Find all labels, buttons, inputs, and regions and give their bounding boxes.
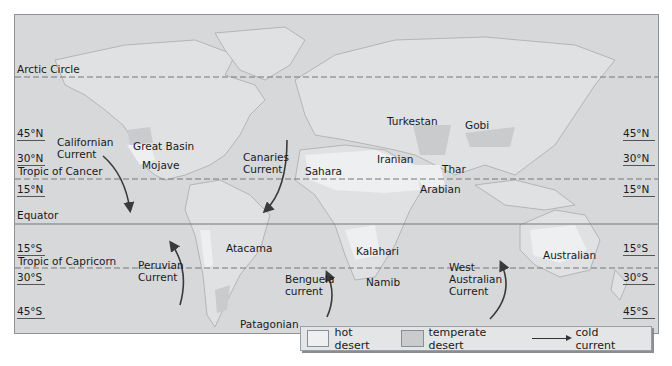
lat-45n-right: 45°N: [623, 127, 655, 141]
current-label-benguela-line2: current: [285, 285, 334, 297]
legend-label-temperate-desert: temperate desert: [429, 326, 519, 352]
world-desert-map: Arctic Circle 45°N 30°N Tropic of Cancer…: [14, 14, 659, 334]
current-label-californian-line2: Current: [57, 148, 114, 160]
desert-label-atacama: Atacama: [226, 242, 272, 254]
current-label-west-australian-line2: Australian: [449, 273, 502, 285]
lat-30s-right: 30°S: [623, 271, 655, 285]
current-label-peruvian-line1: Peruvian: [138, 259, 184, 271]
desert-label-kalahari: Kalahari: [356, 245, 399, 257]
lat-30n-left: 30°N: [17, 152, 45, 166]
current-label-peruvian-line2: Current: [138, 271, 184, 283]
lat-45s-left: 45°S: [17, 305, 45, 319]
current-label-west-australian: West Australian Current: [449, 261, 502, 297]
legend-label-hot-desert: hot desert: [334, 326, 387, 352]
lat-30s-left: 30°S: [17, 271, 45, 285]
desert-label-thar: Thar: [442, 163, 466, 175]
desert-label-gobi: Gobi: [465, 119, 489, 131]
californian-current-arrow: [103, 156, 130, 210]
current-label-benguela-line1: Benguela: [285, 273, 334, 285]
tropic-of-cancer-label: Tropic of Cancer: [18, 165, 103, 177]
arctic-circle-label: Arctic Circle: [17, 63, 80, 75]
desert-label-sahara: Sahara: [305, 165, 342, 177]
desert-label-iranian: Iranian: [377, 153, 414, 165]
equator-label: Equator: [17, 209, 58, 221]
current-label-west-australian-line1: West: [449, 261, 502, 273]
lat-45s-right: 45°S: [623, 305, 655, 319]
current-label-californian: Californian Current: [57, 136, 114, 160]
lat-15s-left: 15°S: [17, 242, 45, 256]
greenland-landmass: [215, 27, 305, 80]
temperate-desert-swatch: [401, 330, 423, 347]
desert-label-great-basin: Great Basin: [133, 140, 194, 152]
current-label-west-australian-line3: Current: [449, 285, 502, 297]
lat-15s-right: 15°S: [623, 242, 655, 256]
desert-label-australian: Australian: [543, 249, 596, 261]
current-label-canaries-line2: Current: [243, 163, 289, 175]
current-label-peruvian: Peruvian Current: [138, 259, 184, 283]
arrow-right-icon: [532, 338, 569, 339]
southeast-asia-islands: [475, 180, 575, 210]
desert-label-turkestan: Turkestan: [387, 115, 438, 127]
lat-15n-right: 15°N: [623, 183, 655, 197]
current-label-californian-line1: Californian: [57, 136, 114, 148]
tropic-of-capricorn-label: Tropic of Capricorn: [18, 255, 116, 267]
hot-desert-swatch: [307, 330, 329, 347]
desert-label-namib: Namib: [366, 276, 400, 288]
legend-label-cold-current: cold current: [576, 326, 637, 352]
desert-label-patagonian: Patagonian: [240, 318, 299, 330]
current-label-canaries-line1: Canaries: [243, 151, 289, 163]
lat-45n-left: 45°N: [17, 127, 45, 141]
current-label-benguela: Benguela current: [285, 273, 334, 297]
legend-item-hot-desert: hot desert: [307, 326, 387, 352]
lat-30n-right: 30°N: [623, 152, 655, 166]
desert-label-mojave: Mojave: [142, 159, 180, 171]
map-legend: hot desert temperate desert cold current: [300, 326, 652, 351]
current-label-canaries: Canaries Current: [243, 151, 289, 175]
legend-item-cold-current: cold current: [532, 326, 637, 352]
desert-label-arabian: Arabian: [420, 183, 461, 195]
lat-15n-left: 15°N: [17, 183, 45, 197]
legend-item-temperate-desert: temperate desert: [401, 326, 518, 352]
